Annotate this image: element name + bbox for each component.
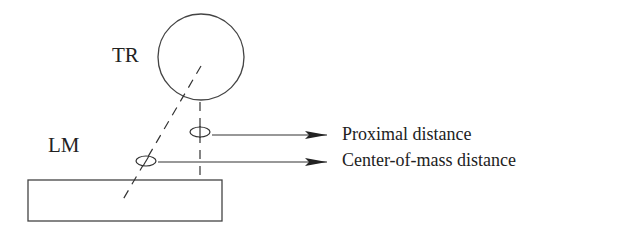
trajector-circle	[158, 14, 244, 100]
center-of-mass-dashed-line	[121, 66, 201, 203]
trajector-label: TR	[112, 43, 139, 67]
proximal-marker-icon	[190, 126, 210, 138]
spatial-diagram: TR LM Proximal distance Center-of-mass d…	[0, 0, 617, 233]
landmark-rectangle	[28, 180, 222, 221]
center-of-mass-distance-label: Center-of-mass distance	[342, 150, 516, 170]
proximal-distance-label: Proximal distance	[342, 124, 471, 144]
center-of-mass-marker-icon	[136, 156, 156, 166]
landmark-label: LM	[48, 133, 80, 157]
